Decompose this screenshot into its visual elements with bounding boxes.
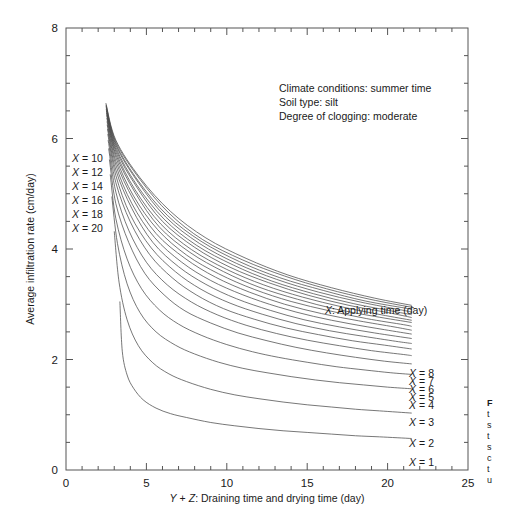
annotation-line-0: Climate conditions: summer time [279, 82, 431, 94]
x-tick-label-4: 20 [381, 477, 394, 489]
x-tick-label-3: 15 [301, 477, 314, 489]
caption-line-3: t [487, 431, 514, 442]
x-tick-label-2: 10 [220, 477, 233, 489]
left-label-text-20: X=20 [71, 222, 103, 234]
caption-line-5: c [487, 453, 514, 464]
legend-note: X: Applying time (day) [324, 304, 427, 316]
left-label-14: X=14 [71, 180, 103, 192]
plot-frame [66, 28, 468, 470]
right-label-4: X=4 [408, 399, 434, 411]
x-title-plus: + [180, 492, 186, 504]
left-label-text-10: X=10 [71, 152, 103, 164]
left-label-text-18: X=18 [71, 208, 103, 220]
x-axis-ticks [82, 28, 452, 470]
plot-frame-rect [66, 28, 468, 470]
left-label-20: X=20 [71, 222, 103, 234]
legend-note-text: X: Applying time (day) [324, 304, 427, 316]
series-curve-X5 [109, 160, 411, 364]
annotation-line-1: Soil type: silt [279, 96, 338, 108]
left-label-16: X=16 [71, 194, 103, 206]
annotation-block: Climate conditions: summer time Soil typ… [279, 82, 431, 122]
annotation-line-2: Degree of clogging: moderate [279, 110, 417, 122]
x-title-rest: : Draining time and drying time (day) [195, 492, 364, 504]
series-curve-X6 [109, 148, 412, 355]
right-label-text-4: X=4 [408, 399, 434, 411]
left-label-12: X=12 [71, 166, 103, 178]
right-label-3: X=3 [408, 416, 434, 428]
series-curve-X7 [108, 140, 412, 349]
caption-line-6: t [487, 464, 514, 475]
series-curve-X18 [106, 106, 412, 309]
figure-caption-fragment: Ftstsctu [487, 398, 514, 486]
right-label-text-3: X=3 [408, 416, 434, 428]
left-series-labels: X=10X=12X=14X=16X=18X=20 [71, 152, 103, 234]
right-label-1: X=1 [408, 456, 434, 468]
x-tick-label-1: 5 [143, 477, 149, 489]
x-axis-tick-labels: 0510152025 [63, 477, 475, 489]
x-title-y: Y [170, 492, 178, 504]
caption-line-1: t [487, 409, 514, 420]
left-label-18: X=18 [71, 208, 103, 220]
x-axis-title: Y+Z: Draining time and drying time (day) [170, 492, 365, 504]
series-curve-X3 [112, 197, 412, 389]
series-curve-X14 [107, 113, 412, 320]
right-label-text-1: X=1 [408, 456, 434, 468]
x-tick-label-5: 25 [462, 477, 475, 489]
caption-line-7: u [487, 475, 514, 486]
infiltration-rate-chart: 0510152025 02468 X=10X=12X=14X=16X=18X=2… [0, 0, 514, 527]
series-curve-X12 [107, 118, 412, 326]
left-label-text-14: X=14 [71, 180, 103, 192]
legend-note-rest: : Applying time (day) [332, 304, 427, 316]
y-tick-label-3: 6 [52, 133, 58, 145]
y-tick-label-0: 0 [52, 464, 58, 476]
series-curve-X20 [106, 103, 412, 305]
y-axis-tick-labels: 02468 [52, 22, 59, 476]
x-axis-title-text: Y+Z: Draining time and drying time (day) [170, 492, 365, 504]
x-tick-label-0: 0 [63, 477, 69, 489]
left-label-text-12: X=12 [71, 166, 103, 178]
right-label-text-2: X=2 [408, 437, 434, 449]
right-series-labels: X=8X=7X=6X=5X=4X=3X=2X=1 [408, 367, 434, 468]
caption-line-2: s [487, 420, 514, 431]
right-label-2: X=2 [408, 437, 434, 449]
series-curve-X17 [106, 108, 412, 312]
curve-series-group [106, 103, 414, 438]
caption-line-4: s [487, 442, 514, 453]
caption-line-0: F [487, 398, 514, 409]
left-label-10: X=10 [71, 152, 103, 164]
y-tick-label-4: 8 [52, 22, 58, 34]
figure-container: 0510152025 02468 X=10X=12X=14X=16X=18X=2… [0, 0, 514, 527]
series-curve-X16 [106, 109, 412, 315]
series-curve-X11 [107, 121, 412, 330]
y-axis-title-text: Average infiltration rate (cm/day) [24, 173, 36, 325]
y-tick-label-1: 2 [52, 354, 58, 366]
y-axis-title: Average infiltration rate (cm/day) [24, 173, 36, 325]
series-curve-X4 [110, 174, 412, 374]
left-label-text-16: X=16 [71, 194, 103, 206]
y-tick-label-2: 4 [52, 243, 59, 255]
